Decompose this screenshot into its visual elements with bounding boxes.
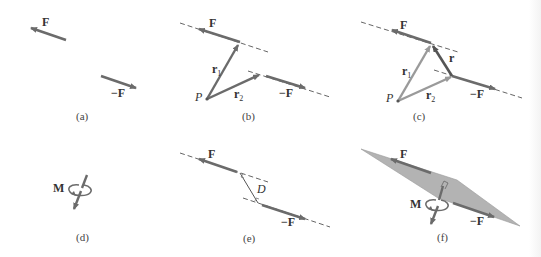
panel-a: F −F (a) (31, 15, 136, 123)
point-p-label: P (194, 90, 203, 104)
panel-f: F −F M (f) (361, 147, 520, 244)
point-p-label: P (385, 91, 394, 105)
force-label: F (42, 15, 49, 29)
couple-moment-figure: F −F (a) F −F P r1 r2 (b) F −F P r1 r2 r (0, 0, 541, 257)
page-edge-shadow (529, 0, 541, 257)
force-label: F (400, 18, 407, 32)
negative-force-label: −F (470, 87, 484, 101)
panel-caption: (a) (76, 110, 89, 123)
negative-force-label: −F (111, 86, 125, 100)
force-label: F (208, 147, 215, 161)
r1-label: r1 (402, 64, 411, 80)
plane-of-couple (361, 149, 520, 226)
panel-caption: (c) (413, 110, 426, 123)
point-p (396, 99, 399, 102)
r-label: r (449, 51, 455, 65)
force-arrow (199, 29, 240, 42)
distance-label: D (256, 182, 266, 196)
figure-canvas: F −F (a) F −F P r1 r2 (b) F −F P r1 r2 r (0, 0, 541, 257)
panel-d: M (d) (53, 175, 91, 244)
panel-e: F −F D (e) (180, 147, 330, 245)
point-p (205, 97, 208, 100)
force-arrow (31, 28, 66, 40)
force-label: F (209, 16, 216, 30)
moment-label: M (410, 197, 421, 211)
r1-label: r1 (212, 62, 221, 78)
panel-caption: (b) (242, 110, 255, 123)
negative-force-label: −F (470, 214, 484, 228)
rotation-arrowhead-icon (428, 206, 433, 211)
r2-label: r2 (234, 87, 243, 103)
negative-force-label: −F (281, 215, 295, 229)
r2-label: r2 (426, 88, 435, 104)
force-arrow (199, 159, 237, 172)
panel-b: F −F P r1 r2 (b) (180, 16, 330, 123)
moment-label: M (53, 181, 64, 195)
panel-caption: (d) (76, 231, 89, 244)
panel-caption: (e) (243, 232, 256, 245)
rotation-arrowhead-icon (71, 191, 76, 196)
force-label: F (400, 147, 407, 161)
panel-c: F −F P r1 r2 r (c) (361, 18, 522, 123)
panel-caption: (f) (437, 231, 448, 244)
force-arrow (392, 30, 431, 43)
negative-force-label: −F (279, 86, 293, 100)
